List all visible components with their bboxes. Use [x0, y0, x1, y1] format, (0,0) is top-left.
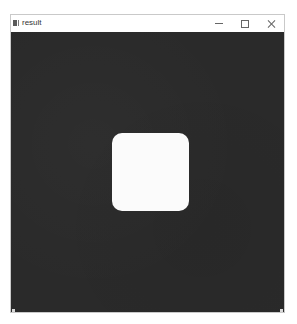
white-rounded-square	[112, 133, 189, 211]
app-icon	[13, 20, 20, 27]
app-icon-bar	[18, 20, 19, 26]
close-icon	[267, 20, 275, 28]
maximize-button[interactable]	[232, 15, 258, 32]
title-bar[interactable]: result	[11, 15, 284, 32]
close-button[interactable]	[258, 15, 284, 32]
resize-grip-right[interactable]	[280, 309, 283, 312]
minimize-button[interactable]	[206, 15, 232, 32]
maximize-icon	[241, 20, 249, 28]
render-canvas	[11, 32, 284, 312]
resize-grip-left	[12, 309, 15, 312]
result-window: result	[10, 14, 285, 313]
window-title: result	[22, 18, 42, 28]
minimize-icon	[215, 23, 223, 24]
app-icon-block	[13, 20, 17, 26]
